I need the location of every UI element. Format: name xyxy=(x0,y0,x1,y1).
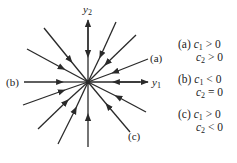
trajectory-upper-left-2 xyxy=(27,49,88,82)
trajectory-a-label: (a) xyxy=(150,53,162,64)
condition-b: (b) c1 < 0 c2 = 0 xyxy=(178,73,223,99)
condition-a: (a) c1 > 0 c2 > 0 xyxy=(178,38,223,64)
trajectory-c-label: (c) xyxy=(128,131,140,142)
origin-point xyxy=(86,80,90,84)
y1-axis-label: y1 xyxy=(152,77,161,88)
trajectory-upper-right-2 xyxy=(88,35,136,82)
condition-b-label: (b) xyxy=(178,73,191,85)
condition-c-label: (c) xyxy=(178,108,191,120)
trajectory-upper-left-1 xyxy=(44,28,88,82)
trajectory-lower-left-2 xyxy=(38,82,88,129)
condition-a-label: (a) xyxy=(178,38,191,50)
trajectory-lower-right-1 xyxy=(88,82,146,112)
trajectory-b-label: (b) xyxy=(6,77,19,88)
trajectory-c xyxy=(88,82,130,132)
condition-c: (c) c1 > 0 c2 < 0 xyxy=(178,108,223,134)
y2-axis-label: y2 xyxy=(83,4,92,15)
